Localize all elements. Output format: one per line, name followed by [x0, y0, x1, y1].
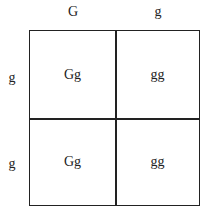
column-allele-1: G — [58, 4, 88, 20]
cell-r1-c1: Gg — [30, 31, 115, 118]
cell-r2-c1: Gg — [30, 119, 115, 204]
cell-r2-c2: gg — [116, 119, 199, 204]
row-allele-2: g — [4, 156, 20, 172]
column-allele-2: g — [143, 4, 173, 20]
cell-r1-c2: gg — [116, 31, 199, 118]
row-allele-1: g — [4, 70, 20, 86]
punnett-grid: Gg gg Gg gg — [29, 30, 200, 206]
